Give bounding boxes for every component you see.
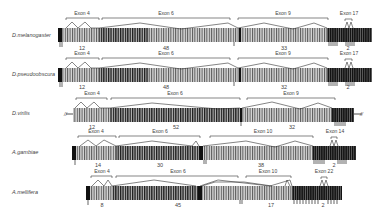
row-mellifera: Exon 4 Exon 6 Exon 10 Exon 22 8 45 17 2 bbox=[86, 168, 342, 208]
truncation-marker-left: // bbox=[63, 111, 67, 117]
exon-label: Exon 9 bbox=[283, 90, 299, 96]
exon-count: 45 bbox=[175, 202, 181, 208]
exon-label: Exon 4 bbox=[88, 128, 104, 134]
exon-label: Exon 9 bbox=[275, 50, 291, 56]
exon-label: Exon 6 bbox=[158, 50, 174, 56]
truncation-marker-right: // bbox=[359, 111, 363, 117]
exon-label: Exon 17 bbox=[340, 10, 359, 16]
exon-label: Exon 6 bbox=[170, 168, 186, 174]
exon-label: Exon 22 bbox=[315, 168, 334, 174]
exon-count: 2 bbox=[321, 202, 324, 208]
exon-label: Exon 17 bbox=[340, 50, 359, 56]
exon-label: Exon 4 bbox=[84, 90, 100, 96]
exon-count: 17 bbox=[268, 202, 274, 208]
exon-label: Exon 6 bbox=[167, 90, 183, 96]
exon-label: Exon 4 bbox=[94, 168, 110, 174]
exon-label: Exon 10 bbox=[259, 168, 278, 174]
exon-label: Exon 6 bbox=[152, 128, 168, 134]
row-gambiae: Exon 4 Exon 6 Exon 10 Exon 14 14 30 38 2 bbox=[72, 128, 356, 168]
exon-count: 32 bbox=[289, 124, 295, 130]
exon-diagram: D.melanogaster D.pseudoobscura D.virilis… bbox=[0, 0, 383, 215]
exon-count: 30 bbox=[157, 162, 163, 168]
row-melanogaster: Exon 4 Exon 6 Exon 9 Exon 17 12 48 33 2 bbox=[58, 10, 372, 51]
row-virilis: // // Exon 4 Exon 6 Exon 9 12 52 32 bbox=[63, 90, 363, 130]
exon-label: Exon 9 bbox=[275, 10, 291, 16]
exon-label: Exon 10 bbox=[254, 128, 273, 134]
exon-count: 52 bbox=[173, 124, 179, 130]
exon-count: 8 bbox=[100, 202, 103, 208]
exon-label: Exon 6 bbox=[158, 10, 174, 16]
row-pseudoobscura: Exon 4 Exon 6 Exon 9 Exon 17 12 48 32 2 bbox=[58, 50, 372, 90]
exon-label: Exon 4 bbox=[74, 10, 90, 16]
exon-count: 2 bbox=[346, 84, 349, 90]
exon-label: Exon 4 bbox=[74, 50, 90, 56]
exon-label: Exon 14 bbox=[326, 128, 345, 134]
